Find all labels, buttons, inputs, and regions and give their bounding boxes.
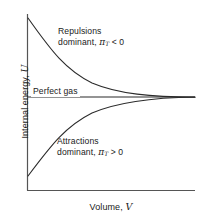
annotation-perfect-gas: Perfect gas (31, 86, 80, 97)
annotation-attractions-line2: dominant, πT > 0 (57, 147, 123, 160)
annotation-attractions: Attractions dominant, πT > 0 (57, 136, 123, 160)
annotation-repulsions-line2: dominant, πT < 0 (58, 37, 124, 50)
annotation-repulsions: Repulsions dominant, πT < 0 (58, 26, 124, 50)
y-axis-label-symbol: U (19, 64, 30, 72)
x-axis-label-text: Volume, (90, 202, 126, 212)
annotation-repulsions-line1: Repulsions (58, 26, 102, 36)
annotation-repulsions-prefix: dominant, (58, 37, 99, 47)
y-axis-label-text: Internal energy, (20, 73, 30, 139)
x-axis-label-symbol: V (125, 201, 132, 212)
x-axis-label: Volume, V (27, 201, 195, 212)
annotation-attractions-prefix: dominant, (57, 147, 98, 157)
annotation-repulsions-suffix: < 0 (109, 37, 124, 47)
annotation-perfect-gas-label: Perfect gas (33, 86, 78, 96)
y-axis-label: Internal energy, U (19, 32, 30, 172)
internal-energy-vs-volume-figure: Repulsions dominant, πT < 0 Perfect gas … (0, 0, 201, 220)
annotation-attractions-suffix: > 0 (108, 147, 123, 157)
annotation-attractions-line1: Attractions (57, 136, 99, 146)
